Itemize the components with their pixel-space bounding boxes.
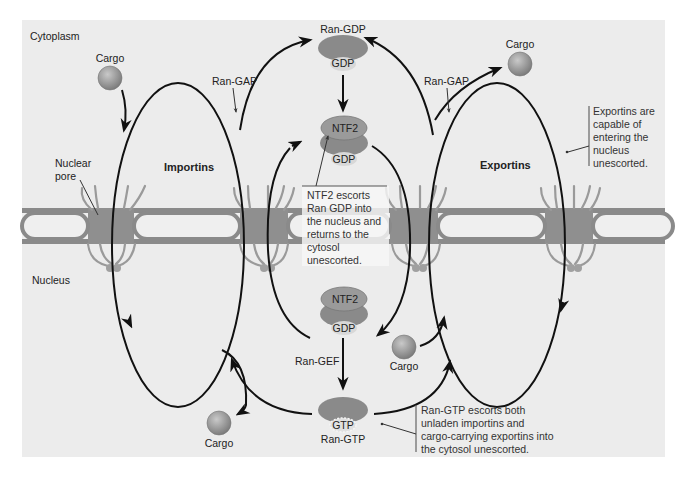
svg-text:Exportins are: Exportins are <box>593 105 655 117</box>
ntf2-top-gdp-label: GDP <box>333 153 356 165</box>
svg-text:returns to the: returns to the <box>307 228 369 240</box>
svg-text:Cargo: Cargo <box>205 437 234 449</box>
gtp-cap-label: GTP <box>332 419 354 431</box>
svg-text:unladen importins and: unladen importins and <box>421 417 524 429</box>
svg-text:Ran GDP into: Ran GDP into <box>307 202 372 214</box>
gdp-cap-label: GDP <box>332 57 355 69</box>
ntf2-top-label: NTF2 <box>332 122 358 134</box>
svg-text:NTF2 escorts: NTF2 escorts <box>307 189 370 201</box>
ran-gdp-label: Ran-GDP <box>320 23 366 35</box>
svg-text:nucleus: nucleus <box>593 144 629 156</box>
exportins-label: Exportins <box>480 159 531 171</box>
nuclear-pore-label-line1: Nuclear <box>55 157 92 169</box>
cytoplasm-label: Cytoplasm <box>30 30 80 42</box>
svg-text:Cargo: Cargo <box>390 360 419 372</box>
svg-text:capable of: capable of <box>593 118 642 130</box>
svg-text:cytosol: cytosol <box>307 241 340 253</box>
svg-text:Cargo: Cargo <box>506 38 535 50</box>
ran-gap-right-label: Ran-GAP <box>424 75 469 87</box>
nucleus-label: Nucleus <box>32 274 70 286</box>
importins-label: Importins <box>164 161 214 173</box>
nuclear-pore-label-line2: pore <box>55 170 76 182</box>
ran-gef-label: Ran-GEF <box>295 355 339 367</box>
ntf2-bottom-label: NTF2 <box>332 293 358 305</box>
svg-text:Cargo: Cargo <box>96 52 125 64</box>
svg-text:unescorted.: unescorted. <box>307 254 362 266</box>
svg-text:the cytosol unescorted.: the cytosol unescorted. <box>421 443 529 455</box>
ran-gap-left-label: Ran-GAP <box>212 75 257 87</box>
nuclear-transport-diagram: GDP Ran-GDP NTF2 GDP NTF2 GDP GTP Ran-GT… <box>0 0 687 478</box>
cargo-bottom-middle: Cargo <box>390 335 419 372</box>
ran-gtp-label: Ran-GTP <box>321 433 365 445</box>
svg-text:cargo-carrying exportins into: cargo-carrying exportins into <box>421 430 554 442</box>
svg-text:the nucleus and: the nucleus and <box>307 215 381 227</box>
svg-text:Ran-GTP escorts both: Ran-GTP escorts both <box>421 404 525 416</box>
svg-text:unescorted.: unescorted. <box>593 157 648 169</box>
svg-text:entering the: entering the <box>593 131 649 143</box>
ntf2-bottom-gdp-label: GDP <box>333 322 356 334</box>
